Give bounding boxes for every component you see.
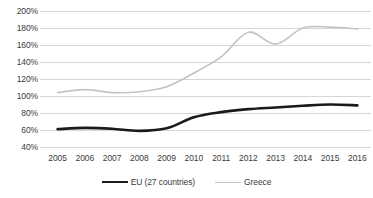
x-tick-label: 2008: [130, 154, 149, 163]
y-tick-label: 120%: [17, 75, 38, 84]
y-tick-label: 80%: [21, 109, 38, 118]
x-tick-label: 2012: [239, 154, 258, 163]
x-tick-label: 2009: [157, 154, 176, 163]
y-tick-label: 200%: [17, 7, 38, 16]
plot-svg: [0, 0, 373, 168]
y-tick-label: 180%: [17, 24, 38, 33]
x-axis-tick-labels: 2005200620072008200920102011201220132014…: [44, 150, 371, 168]
x-tick-label: 2007: [103, 154, 122, 163]
x-tick-label: 2010: [185, 154, 204, 163]
legend-swatch-greece-icon: [215, 182, 241, 183]
legend-label: EU (27 countries): [131, 178, 195, 187]
debt-to-gdp-line-chart: 200%180%160%140%120%100%80%60%40% 200520…: [0, 0, 373, 198]
legend-label: Greece: [244, 178, 271, 187]
x-tick-label: 2006: [76, 154, 95, 163]
chart-legend: EU (27 countries)Greece: [0, 170, 373, 194]
x-tick-label: 2014: [294, 154, 313, 163]
x-tick-label: 2015: [321, 154, 340, 163]
x-tick-label: 2011: [212, 154, 230, 163]
x-tick-label: 2013: [266, 154, 285, 163]
legend-swatch-eu-icon: [102, 181, 128, 183]
legend-entry[interactable]: EU (27 countries): [102, 178, 195, 187]
plot-area: 200%180%160%140%120%100%80%60%40% 200520…: [0, 0, 373, 168]
y-tick-label: 100%: [17, 92, 38, 101]
series-line-greece: [58, 26, 358, 92]
y-tick-label: 140%: [17, 58, 38, 67]
legend-entry[interactable]: Greece: [215, 178, 271, 187]
y-tick-label: 60%: [21, 126, 38, 135]
x-tick-label: 2005: [48, 154, 67, 163]
y-tick-label: 40%: [21, 143, 38, 152]
y-tick-label: 160%: [17, 41, 38, 50]
y-axis-tick-labels: 200%180%160%140%120%100%80%60%40%: [0, 0, 42, 150]
series-line-eu-27-countries: [58, 104, 358, 130]
x-tick-label: 2016: [348, 154, 367, 163]
